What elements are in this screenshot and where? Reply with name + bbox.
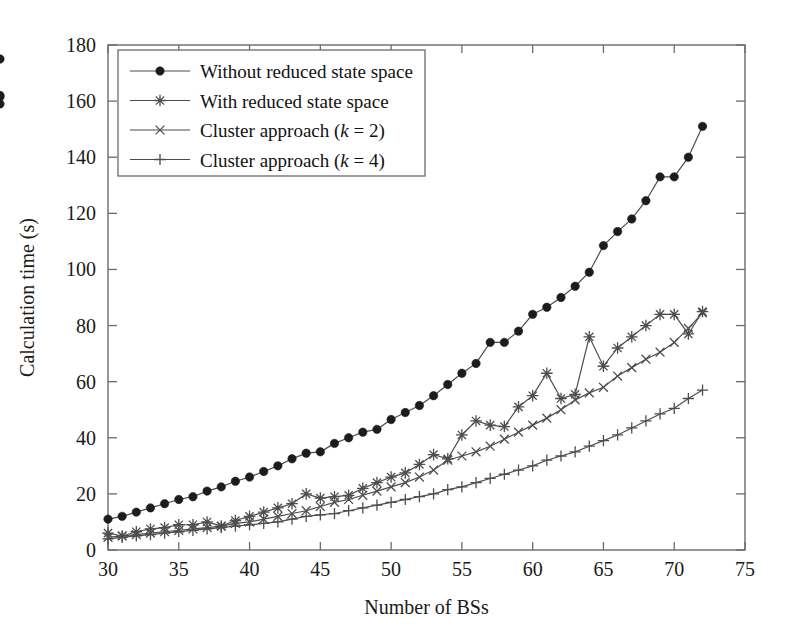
marker-asterisk [258, 506, 270, 518]
marker-filled-circle [203, 487, 211, 495]
marker-filled-circle [444, 380, 452, 388]
marker-asterisk [527, 390, 539, 402]
marker-asterisk [414, 459, 426, 471]
marker-asterisk [399, 467, 411, 479]
x-tick-label: 55 [452, 558, 472, 580]
y-tick-label: 40 [76, 427, 96, 449]
marker-filled-circle [486, 338, 494, 346]
marker-filled-circle [458, 369, 466, 377]
x-tick-label: 50 [381, 558, 401, 580]
marker-filled-circle [642, 197, 650, 205]
marker-asterisk [428, 449, 440, 461]
marker-filled-circle [231, 477, 239, 485]
legend-group: Without reduced state spaceWith reduced … [118, 50, 425, 176]
marker-filled-circle [160, 500, 168, 508]
marker-filled-circle [472, 359, 480, 367]
marker-filled-circle [189, 492, 197, 500]
y-tick-label: 0 [86, 539, 96, 561]
marker-filled-circle [401, 408, 409, 416]
marker-filled-circle [585, 268, 593, 276]
marker-filled-circle [571, 282, 579, 290]
marker-filled-circle [260, 467, 268, 475]
marker-filled-circle [599, 241, 607, 249]
y-tick-label: 60 [76, 371, 96, 393]
marker-filled-circle [613, 227, 621, 235]
marker-asterisk [668, 309, 680, 321]
marker-asterisk [654, 309, 666, 321]
marker-filled-circle [373, 425, 381, 433]
marker-filled-circle [274, 462, 282, 470]
marker-filled-circle [146, 504, 154, 512]
marker-asterisk [640, 320, 652, 332]
marker-filled-circle [557, 293, 565, 301]
marker-filled-circle [132, 508, 140, 516]
marker-asterisk [612, 342, 624, 354]
x-tick-label: 75 [735, 558, 755, 580]
marker-filled-circle [543, 303, 551, 311]
marker-filled-circle [387, 415, 395, 423]
legend-label: Without reduced state space [200, 61, 413, 82]
y-tick-label: 20 [76, 483, 96, 505]
marker-asterisk [598, 360, 610, 372]
marker-filled-circle [316, 448, 324, 456]
figure-container: 3035404550556065707502040608010012014016… [0, 0, 791, 639]
x-tick-label: 45 [310, 558, 330, 580]
legend-label: Cluster approach (k = 4) [200, 150, 385, 172]
y-tick-label: 160 [66, 90, 96, 112]
x-tick-label: 35 [169, 558, 189, 580]
marker-asterisk [555, 393, 567, 405]
x-tick-label: 65 [593, 558, 613, 580]
marker-filled-circle [288, 455, 296, 463]
marker-asterisk [499, 421, 511, 433]
marker-filled-circle [514, 327, 522, 335]
y-tick-label: 140 [66, 146, 96, 168]
marker-asterisk [286, 498, 298, 510]
marker-filled-circle [359, 428, 367, 436]
x-tick-label: 30 [98, 558, 118, 580]
marker-filled-circle [217, 483, 225, 491]
x-axis-title: Number of BSs [364, 596, 489, 618]
marker-asterisk [154, 95, 166, 107]
marker-filled-circle [429, 391, 437, 399]
marker-asterisk [484, 419, 496, 431]
marker-filled-circle [656, 173, 664, 181]
marker-filled-circle [628, 215, 636, 223]
y-tick-label: 180 [66, 34, 96, 56]
marker-asterisk [329, 491, 341, 503]
y-axis-title: Calculation time (s) [16, 218, 39, 377]
marker-filled-circle [330, 439, 338, 447]
legend-label: Cluster approach (k = 2) [200, 120, 385, 142]
marker-filled-circle [175, 495, 183, 503]
line-chart: 3035404550556065707502040608010012014016… [0, 0, 791, 639]
marker-asterisk [583, 331, 595, 343]
marker-filled-circle [528, 310, 536, 318]
marker-asterisk [697, 306, 709, 318]
marker-filled-circle [415, 401, 423, 409]
marker-filled-circle [302, 449, 310, 457]
marker-filled-circle [698, 122, 706, 130]
marker-asterisk [513, 401, 525, 413]
marker-asterisk [385, 471, 397, 483]
marker-filled-circle [344, 434, 352, 442]
marker-asterisk [456, 429, 468, 441]
marker-asterisk [626, 331, 638, 343]
marker-filled-circle [500, 338, 508, 346]
y-tick-label: 80 [76, 315, 96, 337]
marker-asterisk [470, 415, 482, 427]
marker-filled-circle [245, 473, 253, 481]
marker-filled-circle [118, 512, 126, 520]
x-tick-label: 60 [523, 558, 543, 580]
marker-asterisk [300, 488, 312, 500]
marker-filled-circle [670, 173, 678, 181]
marker-filled-circle [684, 153, 692, 161]
legend-label: With reduced state space [200, 91, 389, 112]
marker-asterisk [683, 328, 695, 340]
y-tick-label: 120 [66, 202, 96, 224]
y-tick-label: 100 [66, 258, 96, 280]
x-tick-label: 70 [664, 558, 684, 580]
marker-asterisk [541, 367, 553, 379]
marker-filled-circle [156, 67, 164, 75]
marker-asterisk [357, 482, 369, 494]
marker-filled-circle [104, 515, 112, 523]
x-tick-label: 40 [240, 558, 260, 580]
